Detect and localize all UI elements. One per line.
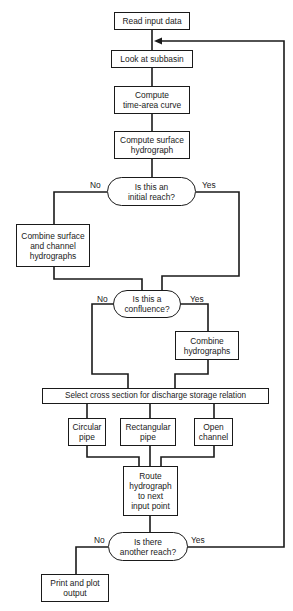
look-at-subbasin-node: Look at subbasin — [111, 50, 193, 68]
another-reach-decision: Is there another reach? — [108, 532, 188, 561]
decision-label: Is this a confluence? — [124, 294, 169, 314]
node-label: Compute surface hydrograph — [120, 135, 184, 155]
compute-time-area-node: Compute time-area curve — [114, 86, 190, 114]
select-cross-section-node: Select cross section for discharge stora… — [42, 388, 269, 404]
confluence-decision: Is this a confluence? — [113, 290, 181, 318]
node-label: Read input data — [122, 16, 181, 26]
node-label: Rectangular pipe — [125, 422, 170, 442]
node-label: Circular pipe — [73, 422, 102, 442]
route-hydrograph-node: Route hydrograph to next input point — [123, 466, 178, 516]
read-input-data-node: Read input data — [114, 12, 190, 30]
combine-surface-channel-node: Combine surface and channel hydrographs — [16, 224, 90, 267]
node-label: Select cross section for discharge stora… — [65, 391, 246, 401]
node-label: Route hydrograph to next input point — [129, 471, 171, 511]
decision-label: Is there another reach? — [120, 537, 176, 557]
combine-hydrographs-node: Combine hydrographs — [175, 331, 239, 360]
initial-yes-label: Yes — [202, 180, 216, 190]
node-label: Compute time-area curve — [123, 90, 181, 110]
open-channel-node: Open channel — [194, 418, 233, 446]
decision-label: Is this an initial reach? — [128, 182, 175, 202]
another-yes-label: Yes — [191, 535, 205, 545]
compute-surface-hydrograph-node: Compute surface hydrograph — [114, 131, 190, 159]
initial-reach-decision: Is this an initial reach? — [107, 177, 196, 206]
circular-pipe-node: Circular pipe — [68, 418, 106, 446]
initial-no-label: No — [90, 180, 101, 190]
node-label: Look at subbasin — [120, 54, 183, 64]
print-plot-output-node: Print and plot output — [41, 574, 109, 602]
confluence-no-label: No — [97, 294, 108, 304]
rectangular-pipe-node: Rectangular pipe — [120, 418, 176, 446]
another-no-label: No — [94, 535, 105, 545]
node-label: Combine surface and channel hydrographs — [21, 231, 84, 261]
node-label: Print and plot output — [50, 578, 99, 598]
arrowhead-icon — [154, 38, 162, 45]
node-label: Combine hydrographs — [184, 336, 231, 356]
node-label: Open channel — [199, 422, 228, 442]
confluence-yes-label: Yes — [190, 294, 204, 304]
